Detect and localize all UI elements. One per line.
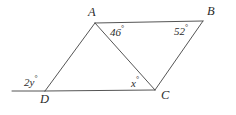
geometry-figure: A B C D 46° 52° x° 2y°	[0, 0, 236, 115]
degree-symbol-at-d: °	[34, 74, 37, 83]
vertex-label-c: C	[161, 89, 169, 102]
vertex-label-b: B	[207, 5, 215, 18]
degree-symbol-at-a: °	[121, 24, 124, 33]
degree-symbol-at-b: °	[185, 23, 188, 32]
degree-symbol-at-c: °	[136, 75, 139, 84]
angle-label-at-d: 2y°	[24, 75, 38, 88]
angle-label-at-a: 46°	[110, 25, 124, 38]
angle-label-at-b: 52°	[174, 24, 188, 37]
angle-value-at-a: 46	[110, 26, 121, 38]
vertex-label-a: A	[88, 6, 96, 19]
angle-value-at-d: 2y	[24, 76, 34, 88]
angle-label-at-c: x°	[131, 76, 139, 89]
angle-value-at-b: 52	[174, 25, 185, 37]
segment-diagonal-AC	[95, 23, 155, 90]
vertex-label-d: D	[40, 93, 49, 106]
segment-side-DA	[45, 23, 95, 91]
segment-side-DC	[45, 90, 155, 91]
geometry-drawing	[0, 0, 236, 115]
